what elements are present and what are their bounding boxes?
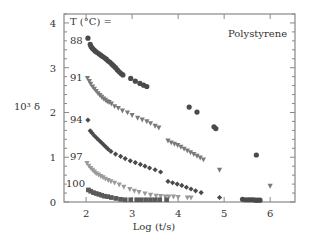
series-label-94: 94	[70, 114, 83, 125]
series-label-97: 97	[70, 151, 83, 162]
annotation-polystyrene: Polystyrene	[228, 28, 287, 39]
point-100	[164, 197, 169, 202]
point-94	[85, 117, 90, 122]
point-94	[158, 169, 163, 174]
point-94	[123, 156, 128, 161]
point-97	[117, 182, 122, 187]
data-marks: 88919497100	[66, 35, 273, 203]
point-100	[148, 197, 153, 202]
point-97	[121, 185, 126, 190]
y-tick-label: 1	[50, 152, 56, 163]
point-100	[157, 197, 162, 202]
point-91	[156, 126, 161, 131]
point-94	[113, 152, 118, 157]
point-88	[194, 109, 199, 114]
point-88	[254, 152, 259, 157]
x-axis-label: Log (t/s)	[133, 221, 176, 232]
chart: 0123423456 88919497100 Polystyrene T (°C…	[0, 0, 309, 242]
point-97	[142, 191, 147, 196]
point-91	[201, 157, 206, 162]
point-91	[135, 116, 140, 121]
point-97	[171, 195, 176, 200]
point-100	[109, 195, 114, 200]
series-label-88: 88	[70, 35, 83, 46]
point-94	[118, 154, 123, 159]
point-100	[114, 196, 119, 201]
point-88	[213, 126, 218, 131]
point-91	[268, 184, 273, 189]
point-97	[188, 195, 193, 200]
point-100	[128, 197, 133, 202]
point-94	[147, 165, 152, 170]
point-100	[134, 197, 139, 202]
series-label-91: 91	[70, 72, 83, 83]
point-100	[123, 197, 128, 202]
y-tick-label: 2	[50, 107, 56, 118]
point-88	[128, 76, 133, 81]
legend-header: T (°C) =	[70, 16, 112, 27]
point-94	[153, 167, 158, 172]
point-91	[125, 110, 130, 115]
point-94	[165, 179, 170, 184]
point-94	[128, 158, 133, 163]
point-88	[144, 84, 149, 89]
point-94	[184, 185, 189, 190]
point-97	[136, 190, 141, 195]
point-88	[85, 36, 90, 41]
point-88	[187, 105, 192, 110]
point-94	[133, 160, 138, 165]
y-tick-label: 4	[50, 18, 56, 29]
point-94	[188, 186, 193, 191]
point-100	[118, 197, 123, 202]
point-94	[175, 181, 180, 186]
point-97	[127, 187, 132, 192]
series-91	[85, 76, 273, 189]
point-88	[120, 72, 125, 77]
y-tick-label: 3	[50, 63, 56, 74]
point-100	[144, 197, 149, 202]
series-88	[85, 36, 262, 203]
point-97	[132, 189, 137, 194]
x-tick-label: 4	[175, 208, 181, 219]
y-axis-label: 10³ δ	[14, 101, 40, 112]
x-tick-label: 5	[221, 208, 227, 219]
point-94	[217, 195, 222, 200]
y-tick-label: 0	[50, 197, 56, 208]
point-97	[176, 195, 181, 200]
point-97	[148, 193, 153, 198]
point-100	[139, 197, 144, 202]
point-91	[120, 109, 125, 114]
point-94	[138, 162, 143, 167]
point-94	[142, 164, 147, 169]
point-91	[130, 113, 135, 118]
series-label-100: 100	[66, 178, 85, 189]
x-tick-label: 3	[129, 208, 135, 219]
point-94	[193, 188, 198, 193]
point-91	[116, 106, 121, 111]
point-88	[133, 79, 138, 84]
point-100	[153, 197, 158, 202]
point-94	[179, 183, 184, 188]
x-tick-label: 2	[83, 208, 89, 219]
point-91	[148, 121, 153, 126]
point-94	[199, 190, 204, 195]
point-91	[140, 118, 145, 123]
point-97	[112, 181, 117, 186]
point-91	[217, 168, 222, 173]
point-88	[257, 198, 262, 203]
x-tick-label: 6	[267, 208, 273, 219]
point-94	[170, 180, 175, 185]
